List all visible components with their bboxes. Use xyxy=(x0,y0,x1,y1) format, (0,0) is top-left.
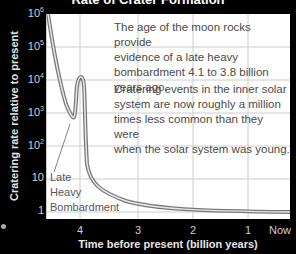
y-tick-1e3: 103 xyxy=(28,105,44,118)
y-tick-1e6: 106 xyxy=(28,6,44,19)
x-tick-4: 4 xyxy=(77,224,83,236)
y-tick-1e4: 104 xyxy=(28,72,44,85)
y-tick-10: 10 xyxy=(32,171,44,183)
x-axis-label: Time before present (billion years) xyxy=(46,238,290,250)
annotation-now-rate: Cratering events in the inner solar syst… xyxy=(114,82,290,157)
x-tick-2: 2 xyxy=(190,224,196,236)
x-tick-1: 1 xyxy=(245,224,251,236)
x-tick-3: 3 xyxy=(135,224,141,236)
lhb-pointer-line xyxy=(54,124,70,172)
y-tick-1e5: 105 xyxy=(28,39,44,52)
y-tick-1: 1 xyxy=(38,204,44,216)
decorative-dot xyxy=(1,224,6,229)
y-tick-1e2: 102 xyxy=(28,138,44,151)
x-tick-now: Now xyxy=(269,224,291,236)
y-axis-label: Cratering rate relative to present xyxy=(8,16,20,216)
annotation-lhb: Late Heavy Bombardment xyxy=(50,170,119,215)
chart-title: Rate of Crater Formation xyxy=(0,0,296,7)
